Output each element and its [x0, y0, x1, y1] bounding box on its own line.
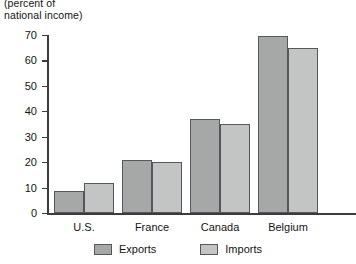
y-axis-line [47, 35, 49, 213]
y-tick-label-70: 70 [25, 29, 37, 41]
bar-canada-imports [220, 124, 250, 213]
bar-france-imports [152, 162, 182, 213]
legend-swatch-imports-icon [200, 244, 218, 255]
chart-legend: Exports Imports [0, 243, 356, 255]
legend-item-exports: Exports [94, 243, 156, 255]
axis-unit-caption-line1: (percent of [4, 0, 55, 9]
x-axis-line [47, 213, 356, 215]
legend-item-imports: Imports [200, 243, 262, 255]
y-tick-label-10: 10 [25, 182, 37, 194]
y-tick-label-60: 60 [25, 54, 37, 66]
bar-belgium-exports [258, 36, 288, 213]
y-tick-label-0: 0 [31, 207, 37, 219]
bar-belgium-imports [288, 48, 318, 213]
category-label-france: France [135, 221, 169, 233]
bar-canada-exports [190, 119, 220, 213]
y-tick-30 [42, 137, 47, 138]
bar-us-exports [54, 191, 84, 213]
legend-swatch-exports-icon [94, 244, 112, 255]
legend-label-imports: Imports [225, 243, 262, 255]
plot-area: 010203040506070 U.S.FranceCanadaBelgium [47, 35, 340, 213]
y-tick-40 [42, 111, 47, 112]
y-tick-60 [42, 60, 47, 61]
y-tick-20 [42, 162, 47, 163]
category-label-us: U.S. [73, 221, 94, 233]
category-label-canada: Canada [201, 221, 240, 233]
category-label-belgium: Belgium [268, 221, 308, 233]
axis-unit-caption: (percent of national income) [4, 0, 83, 21]
y-tick-50 [42, 86, 47, 87]
y-tick-10 [42, 188, 47, 189]
y-tick-label-50: 50 [25, 80, 37, 92]
y-tick-label-30: 30 [25, 131, 37, 143]
y-tick-0 [42, 213, 47, 214]
axis-unit-caption-line2: national income) [4, 9, 83, 21]
legend-label-exports: Exports [119, 243, 156, 255]
y-tick-70 [42, 35, 47, 36]
bar-france-exports [122, 160, 152, 213]
y-tick-label-40: 40 [25, 105, 37, 117]
bar-chart: (percent of national income) 01020304050… [0, 0, 356, 264]
bar-us-imports [84, 183, 114, 214]
y-tick-label-20: 20 [25, 156, 37, 168]
